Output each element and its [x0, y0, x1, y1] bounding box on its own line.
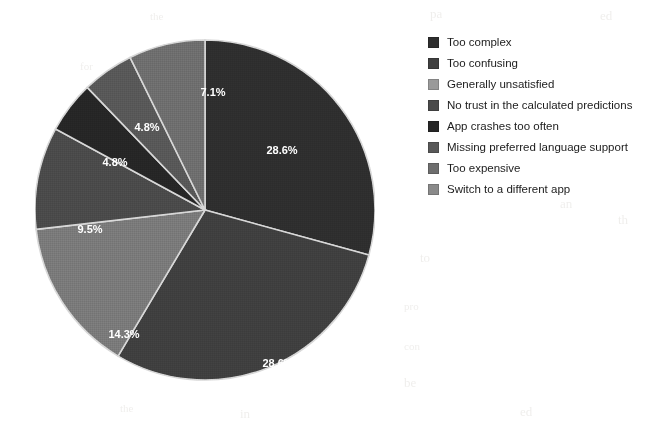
pie-chart-svg: 28.6%28.6%14.3%9.5%4.8%4.8%7.1%: [35, 27, 375, 393]
pie-slice-percent-label: 7.1%: [200, 86, 225, 98]
pie-slice-percent-label: 9.5%: [77, 223, 102, 235]
chart-legend: Too complexToo confusingGenerally unsati…: [428, 32, 664, 200]
legend-color-swatch: [428, 184, 439, 195]
pie-slice-percent-label: 14.3%: [108, 328, 139, 340]
pie-chart: 28.6%28.6%14.3%9.5%4.8%4.8%7.1%: [35, 27, 375, 393]
legend-item[interactable]: Too expensive: [428, 158, 664, 178]
background-ghost-text: con: [404, 340, 420, 352]
legend-color-swatch: [428, 163, 439, 174]
pie-slice-percent-label: 4.8%: [134, 121, 159, 133]
legend-item[interactable]: Too confusing: [428, 53, 664, 73]
legend-color-swatch: [428, 142, 439, 153]
legend-color-swatch: [428, 58, 439, 69]
legend-color-swatch: [428, 37, 439, 48]
legend-item[interactable]: No trust in the calculated predictions: [428, 95, 664, 115]
background-ghost-text: to: [420, 250, 430, 266]
pie-slice-percent-label: 4.8%: [102, 156, 127, 168]
legend-color-swatch: [428, 100, 439, 111]
legend-item-label: Missing preferred language support: [447, 141, 628, 154]
legend-item[interactable]: Switch to a different app: [428, 179, 664, 199]
background-ghost-text: pa: [430, 6, 442, 22]
pie-slice-percent-label: 28.6%: [266, 144, 297, 156]
legend-item-label: Generally unsatisfied: [447, 78, 554, 91]
legend-item[interactable]: Generally unsatisfied: [428, 74, 664, 94]
legend-color-swatch: [428, 79, 439, 90]
background-ghost-text: ed: [520, 404, 532, 420]
legend-item[interactable]: Too complex: [428, 32, 664, 52]
background-ghost-text: ed: [600, 8, 612, 24]
legend-item[interactable]: Missing preferred language support: [428, 137, 664, 157]
legend-item-label: Too confusing: [447, 57, 518, 70]
legend-item-label: Too complex: [447, 36, 512, 49]
pie-slice-percent-label: 28.6%: [262, 357, 293, 369]
legend-item-label: Switch to a different app: [447, 183, 570, 196]
pie-chart-figure: 28.6%28.6%14.3%9.5%4.8%4.8%7.1%: [0, 0, 400, 424]
legend-item-label: No trust in the calculated predictions: [447, 99, 632, 112]
background-ghost-text: th: [618, 212, 628, 228]
legend-item[interactable]: App crashes too often: [428, 116, 664, 136]
background-ghost-text: pro: [404, 300, 419, 312]
background-ghost-text: be: [404, 375, 416, 391]
legend-item-label: App crashes too often: [447, 120, 559, 133]
legend-item-label: Too expensive: [447, 162, 521, 175]
legend-color-swatch: [428, 121, 439, 132]
